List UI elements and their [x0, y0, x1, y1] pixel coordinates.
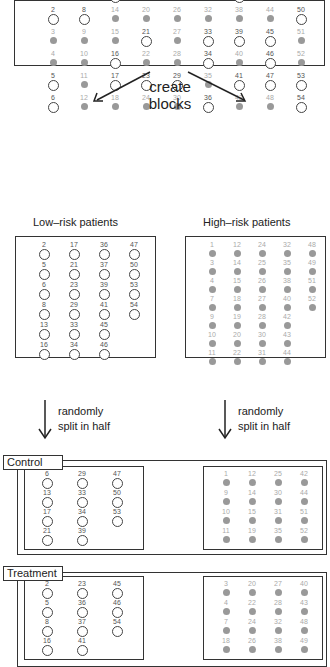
- patient-number: 21: [66, 261, 82, 269]
- low-risk-patient: 34: [74, 508, 90, 527]
- high-risk-patient: 32: [270, 618, 286, 634]
- filled-dot-icon: [301, 627, 308, 634]
- filled-dot-icon: [284, 358, 291, 365]
- filled-dot-icon: [309, 268, 316, 275]
- patient-number: 8: [36, 301, 52, 309]
- patient-number: 46: [109, 599, 125, 607]
- low-risk-patient: 29: [66, 301, 82, 320]
- high-risk-patient: 32: [279, 241, 295, 257]
- open-circle-icon: [99, 329, 110, 340]
- low-risk-patient: 6: [36, 281, 52, 300]
- patient-number: 16: [39, 637, 55, 645]
- patient-number: 9: [204, 313, 220, 321]
- treatment-tag: Treatment: [3, 566, 63, 581]
- patient-number: 52: [296, 527, 312, 535]
- high-risk-patient: 48: [296, 618, 312, 634]
- high-risk-patient: 9: [204, 313, 220, 329]
- low-risk-patient: 13: [39, 489, 55, 508]
- low-risk-patient: 50: [109, 489, 125, 508]
- high-risk-patient: 40: [279, 295, 295, 311]
- filled-dot-icon: [234, 322, 241, 329]
- control-low-risk: 613172129333439475053: [24, 466, 144, 550]
- open-circle-icon: [112, 626, 123, 637]
- low-risk-patient: 47: [109, 470, 125, 489]
- patient-number: 48: [304, 241, 320, 249]
- patient-number: 25: [254, 259, 270, 267]
- filled-dot-icon: [223, 536, 230, 543]
- patient-number: 45: [96, 321, 112, 329]
- high-risk-patient: 4: [218, 599, 234, 615]
- low-risk-patient: 45: [96, 321, 112, 340]
- low-risk-patient: 23: [74, 580, 90, 599]
- open-circle-icon: [129, 289, 140, 300]
- patient-number: 6: [36, 281, 52, 289]
- patient-number: 12: [244, 470, 260, 478]
- low-risk-patient: 8: [36, 301, 52, 320]
- filled-dot-icon: [209, 250, 216, 257]
- filled-dot-icon: [209, 286, 216, 293]
- high-risk-patient: 27: [254, 295, 270, 311]
- patient-number: 37: [96, 261, 112, 269]
- patient-number: 43: [279, 331, 295, 339]
- patient-number: 34: [66, 341, 82, 349]
- low-risk-patient: 21: [39, 527, 55, 546]
- low-risk-patient: 53: [126, 281, 142, 300]
- high-risk-patient: 43: [279, 331, 295, 347]
- high-risk-block: 1347910111214151819202224252627283031323…: [185, 236, 326, 358]
- filled-dot-icon: [275, 646, 282, 653]
- filled-dot-icon: [309, 250, 316, 257]
- open-circle-icon: [99, 309, 110, 320]
- low-risk-patient: 39: [74, 527, 90, 546]
- high-risk-patient: 11: [218, 527, 234, 543]
- patient-number: 18: [229, 295, 245, 303]
- filled-dot-icon: [301, 608, 308, 615]
- low-risk-patient: 37: [96, 261, 112, 280]
- filled-dot-icon: [259, 268, 266, 275]
- filled-dot-icon: [275, 589, 282, 596]
- open-circle-icon: [99, 349, 110, 360]
- patient-number: 40: [279, 295, 295, 303]
- low-risk-patient: 50: [126, 261, 142, 280]
- patient-number: 4: [204, 277, 220, 285]
- patient-number: 54: [109, 618, 125, 626]
- patient-number: 19: [229, 313, 245, 321]
- patient-number: 8: [39, 618, 55, 626]
- high-risk-patient: 44: [296, 489, 312, 505]
- high-risk-patient: 30: [270, 489, 286, 505]
- filled-dot-icon: [209, 304, 216, 311]
- open-circle-icon: [77, 607, 88, 618]
- high-risk-patient: 11: [204, 349, 220, 365]
- patient-number: 26: [244, 637, 260, 645]
- filled-dot-icon: [234, 340, 241, 347]
- high-risk-patient: 14: [244, 489, 260, 505]
- patient-number: 39: [96, 281, 112, 289]
- patient-number: 33: [66, 321, 82, 329]
- patient-number: 14: [229, 259, 245, 267]
- patient-number: 10: [218, 508, 234, 516]
- filled-dot-icon: [301, 517, 308, 524]
- high-risk-patient: 27: [270, 580, 286, 596]
- open-circle-icon: [77, 645, 88, 656]
- patient-number: 12: [229, 241, 245, 249]
- open-circle-icon: [129, 269, 140, 280]
- open-circle-icon: [99, 249, 110, 260]
- filled-dot-icon: [301, 589, 308, 596]
- filled-dot-icon: [259, 286, 266, 293]
- high-risk-patient: 25: [270, 470, 286, 486]
- patient-number: 36: [96, 241, 112, 249]
- patient-number: 52: [304, 295, 320, 303]
- patient-number: 54: [126, 301, 142, 309]
- filled-dot-icon: [234, 304, 241, 311]
- patient-number: 2: [39, 580, 55, 588]
- patient-number: 48: [296, 618, 312, 626]
- open-circle-icon: [77, 588, 88, 599]
- open-circle-icon: [129, 249, 140, 260]
- patient-number: 23: [66, 281, 82, 289]
- filled-dot-icon: [284, 268, 291, 275]
- patient-number: 13: [36, 321, 52, 329]
- filled-dot-icon: [275, 479, 282, 486]
- filled-dot-icon: [275, 608, 282, 615]
- low-risk-patient: 33: [74, 489, 90, 508]
- open-circle-icon: [112, 588, 123, 599]
- patient-number: 42: [296, 470, 312, 478]
